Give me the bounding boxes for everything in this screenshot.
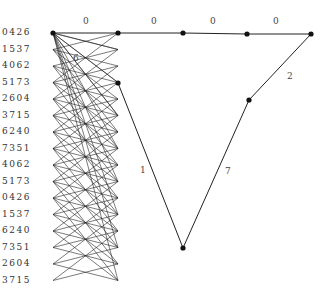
edge-weight-label: 0: [273, 16, 279, 26]
graph-node: [308, 31, 313, 36]
row-label: 2604: [2, 258, 31, 268]
row-label: 7351: [2, 143, 31, 153]
row-label: 0426: [2, 192, 31, 202]
row-label: 4062: [2, 60, 31, 70]
row-label: 4062: [2, 159, 31, 169]
graph-node: [115, 80, 120, 85]
row-label: 6240: [2, 126, 31, 136]
edge-weight-label: 7: [225, 166, 231, 176]
edge-weight-label: 6: [73, 53, 79, 63]
row-label: 3715: [2, 110, 31, 120]
graph-node: [244, 31, 249, 36]
edge: [118, 83, 183, 248]
row-label: 1537: [2, 209, 31, 219]
edge-weight-label: 0: [151, 16, 157, 26]
row-label: 5173: [2, 77, 31, 87]
row-label: 3715: [2, 275, 31, 285]
graph-node: [246, 97, 251, 102]
edge: [183, 100, 249, 248]
edge-weight-label: 0: [210, 16, 216, 26]
graph-node: [180, 245, 185, 250]
edge-weight-label: 2: [287, 71, 293, 81]
graph-node: [115, 30, 120, 35]
diagram: 0426153740625173260437156240735140625173…: [0, 0, 328, 297]
row-label: 5173: [2, 176, 31, 186]
edge-weight-label: 1: [140, 165, 146, 175]
edge-weight-label: 0: [83, 16, 89, 26]
row-label: 2604: [2, 93, 31, 103]
edge: [183, 33, 247, 34]
graph-canvas: [0, 0, 328, 297]
edge: [249, 34, 311, 100]
row-label: 0426: [2, 27, 31, 37]
row-label: 1537: [2, 44, 31, 54]
row-label: 7351: [2, 242, 31, 252]
graph-node: [180, 30, 185, 35]
row-label: 6240: [2, 225, 31, 235]
graph-node: [50, 30, 55, 35]
